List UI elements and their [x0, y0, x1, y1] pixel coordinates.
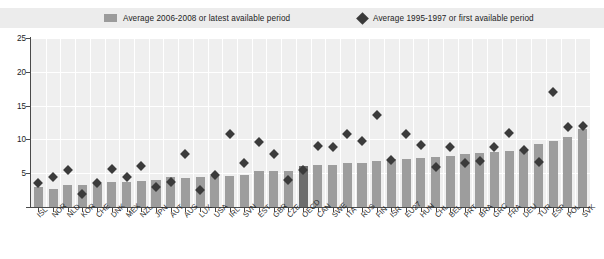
x-gridline — [575, 38, 576, 207]
x-axis-tick — [524, 208, 525, 212]
x-gridline — [311, 38, 312, 207]
x-gridline — [502, 38, 503, 207]
x-axis-tick — [82, 208, 83, 212]
x-gridline — [105, 38, 106, 207]
x-axis-tick — [112, 208, 113, 212]
bar-esp — [549, 141, 558, 207]
y-axis-tick — [26, 38, 31, 39]
x-gridline — [546, 38, 547, 207]
marker-irl — [225, 129, 235, 139]
x-gridline — [516, 38, 517, 207]
x-gridline — [266, 38, 267, 207]
x-axis-tick — [185, 208, 186, 212]
x-axis-tick — [38, 208, 39, 212]
x-gridline — [163, 38, 164, 207]
legend-item-average-1995-1997: Average 1995-1997 or first available per… — [358, 8, 534, 28]
bar-isr — [387, 159, 396, 207]
x-gridline — [119, 38, 120, 207]
x-gridline — [561, 38, 562, 207]
x-axis-tick — [171, 208, 172, 212]
x-axis-tick — [274, 208, 275, 212]
marker-nzl — [136, 161, 146, 171]
x-axis-tick — [53, 208, 54, 212]
x-gridline — [208, 38, 209, 207]
marker-gbr — [269, 149, 279, 159]
x-axis-tick — [362, 208, 363, 212]
y-axis-tick-label: 15 — [4, 101, 26, 110]
bar-nor — [49, 189, 58, 207]
plot-area — [31, 38, 590, 207]
bar-usa — [210, 176, 219, 207]
x-axis-tick — [215, 208, 216, 212]
x-gridline — [487, 38, 488, 207]
x-gridline — [325, 38, 326, 207]
x-gridline — [443, 38, 444, 207]
bar-gbr — [269, 171, 278, 208]
marker-pol — [563, 122, 573, 132]
x-gridline — [134, 38, 135, 207]
marker-swe — [328, 142, 338, 152]
x-axis-tick — [377, 208, 378, 212]
x-gridline — [178, 38, 179, 207]
bar-hun — [416, 158, 425, 207]
bar-tur — [534, 144, 543, 207]
x-axis-tick — [391, 208, 392, 212]
marker-esp — [548, 87, 558, 97]
x-axis-tick — [494, 208, 495, 212]
marker-grc — [489, 142, 499, 152]
bar-est — [254, 171, 263, 207]
x-axis-tick — [465, 208, 466, 212]
legend-label-series2: Average 1995-1997 or first available per… — [373, 14, 534, 23]
x-axis-tick — [553, 208, 554, 212]
marker-dnk — [107, 164, 117, 174]
bar-bel — [446, 156, 455, 207]
marker-can — [313, 141, 323, 151]
x-gridline — [75, 38, 76, 207]
x-gridline — [46, 38, 47, 207]
x-axis-tick — [406, 208, 407, 212]
x-axis-tick — [68, 208, 69, 212]
x-axis-tick — [539, 208, 540, 212]
x-axis-tick — [288, 208, 289, 212]
x-gridline — [149, 38, 150, 207]
x-axis-tick — [509, 208, 510, 212]
marker-fra — [504, 128, 514, 138]
bar-swatch-icon — [104, 14, 117, 22]
x-gridline — [399, 38, 400, 207]
x-gridline — [193, 38, 194, 207]
x-gridline — [60, 38, 61, 207]
legend-label-series1: Average 2006-2008 or latest available pe… — [123, 14, 290, 23]
x-gridline — [237, 38, 238, 207]
marker-ita — [342, 129, 352, 139]
x-gridline — [296, 38, 297, 207]
marker-fin — [372, 110, 382, 120]
x-gridline — [281, 38, 282, 207]
bar-fin — [372, 161, 381, 207]
bar-svk — [578, 129, 587, 207]
bar-aus — [181, 178, 190, 207]
x-axis-tick — [450, 208, 451, 212]
x-axis-tick — [568, 208, 569, 212]
y-axis-tick — [26, 207, 31, 208]
x-axis-tick — [347, 208, 348, 212]
x-gridline — [458, 38, 459, 207]
bar-mex — [122, 182, 131, 207]
x-gridline — [340, 38, 341, 207]
x-gridline — [90, 38, 91, 207]
x-axis-tick — [200, 208, 201, 212]
x-gridline — [428, 38, 429, 207]
y-axis-tick-label: 5 — [4, 169, 26, 178]
bar-dnk — [107, 182, 116, 207]
y-axis-tick — [26, 139, 31, 140]
y-axis-tick — [26, 72, 31, 73]
x-gridline — [355, 38, 356, 207]
x-axis-tick — [480, 208, 481, 212]
diamond-marker-icon — [356, 12, 369, 25]
x-axis-tick — [436, 208, 437, 212]
x-gridline — [472, 38, 473, 207]
y-axis-tick — [26, 106, 31, 107]
y-axis-tick-label: 10 — [4, 135, 26, 144]
bar-irl — [225, 176, 234, 207]
y-axis-tick-label: 25 — [4, 34, 26, 43]
bar-svn — [240, 175, 249, 207]
